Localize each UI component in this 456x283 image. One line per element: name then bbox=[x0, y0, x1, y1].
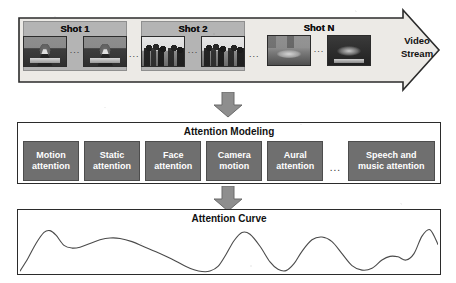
model-box-line1: Face bbox=[163, 150, 184, 161]
model-ellipsis: ... bbox=[328, 163, 342, 181]
video-stream-label: Video Stream bbox=[395, 34, 439, 60]
model-box-line1: Camera bbox=[218, 150, 251, 161]
anchor-frame-thumbnail bbox=[83, 36, 127, 67]
shot-label: Shot N bbox=[304, 22, 335, 34]
night-frame-thumbnail bbox=[327, 35, 371, 66]
frame-ellipsis: ... bbox=[314, 45, 325, 57]
attention-modeling-panel: Attention Modeling Motion attention Stat… bbox=[17, 122, 441, 184]
anchor-frame-thumbnail bbox=[23, 36, 67, 67]
model-box-line2: attention bbox=[276, 161, 314, 172]
model-box-speech-and-music-attention[interactable]: Speech and music attention bbox=[348, 141, 435, 181]
model-box-line1: Static bbox=[100, 150, 125, 161]
down-arrow-icon bbox=[213, 92, 243, 118]
model-box-static-attention[interactable]: Static attention bbox=[84, 141, 140, 181]
model-box-motion-attention[interactable]: Motion attention bbox=[23, 141, 79, 181]
model-box-face-attention[interactable]: Face attention bbox=[145, 141, 201, 181]
model-box-line2: attention bbox=[32, 161, 70, 172]
model-box-aural-attention[interactable]: Aural attention bbox=[267, 141, 323, 181]
model-box-line1: Motion bbox=[36, 150, 66, 161]
model-box-line2: attention bbox=[93, 161, 131, 172]
model-box-camera-motion[interactable]: Camera motion bbox=[206, 141, 262, 181]
frame-ellipsis: ... bbox=[70, 46, 81, 58]
model-box-line2: motion bbox=[219, 161, 249, 172]
frame-ellipsis: ... bbox=[188, 46, 199, 58]
crowd-frame-thumbnail bbox=[141, 36, 185, 67]
model-box-line2: music attention bbox=[358, 161, 425, 172]
shot-separator-dots: ... bbox=[249, 50, 260, 62]
scene-frame-thumbnail bbox=[267, 35, 311, 66]
crowd-frame-thumbnail bbox=[201, 36, 245, 67]
shot-separator-dots: ... bbox=[129, 50, 140, 62]
model-box-line2: attention bbox=[154, 161, 192, 172]
shot-label: Shot 2 bbox=[178, 23, 207, 35]
video-stream-label-line2: Stream bbox=[395, 47, 439, 60]
shot-label: Shot 1 bbox=[60, 23, 89, 35]
attention-pipeline-diagram: Shot 1 ... ... Shot 2 ... ... Shot N ... bbox=[0, 0, 456, 283]
attention-curve-plot bbox=[20, 224, 438, 273]
attention-curve-panel: Attention Curve bbox=[17, 209, 441, 275]
shot-group: Shot 2 ... bbox=[141, 21, 245, 71]
model-box-line1: Speech and bbox=[366, 150, 417, 161]
model-box-line1: Aural bbox=[284, 150, 307, 161]
attention-modeling-title: Attention Modeling bbox=[18, 123, 440, 139]
attention-curve-line bbox=[20, 229, 438, 271]
shot-group: Shot N ... bbox=[267, 21, 371, 71]
shot-group: Shot 1 ... bbox=[23, 21, 127, 71]
video-stream-arrow: Shot 1 ... ... Shot 2 ... ... Shot N ... bbox=[17, 8, 441, 92]
video-stream-label-line1: Video bbox=[395, 34, 439, 47]
attention-model-list: Motion attention Static attention Face a… bbox=[23, 141, 435, 181]
shot-frames: ... bbox=[141, 36, 246, 67]
shot-frames: ... bbox=[267, 35, 372, 66]
shot-frames: ... bbox=[23, 36, 128, 67]
